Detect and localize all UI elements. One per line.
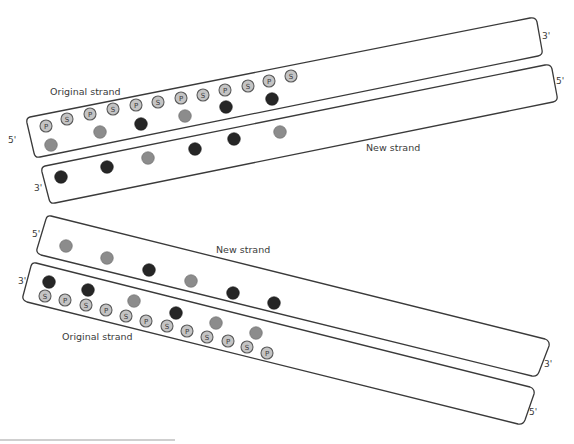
sugar-node: S — [80, 299, 92, 311]
phosphate-node: P — [261, 347, 273, 359]
svg-text:S: S — [201, 92, 206, 100]
bottom-original-strand-label: Original strand — [62, 331, 133, 342]
sugar-node: S — [241, 341, 253, 353]
sugar-node: S — [201, 331, 213, 343]
phosphate-node: P — [175, 92, 187, 104]
svg-text:S: S — [165, 323, 170, 331]
sugar-node: S — [120, 310, 132, 322]
base-dark — [143, 264, 156, 277]
svg-text:S: S — [289, 73, 294, 81]
phosphate-node: P — [84, 108, 96, 120]
base-gray — [274, 126, 287, 139]
top-new-left-end-label: 3' — [34, 183, 42, 193]
svg-text:P: P — [144, 318, 148, 326]
bottom-original-backbone: SPSPSPSPSPSP — [39, 290, 273, 359]
top-new-bases — [55, 126, 287, 184]
base-gray — [142, 152, 155, 165]
base-gray — [45, 139, 58, 152]
svg-text:P: P — [179, 95, 183, 103]
sugar-node: S — [161, 320, 173, 332]
base-dark — [82, 284, 95, 297]
svg-text:P: P — [44, 123, 48, 131]
sugar-node: S — [285, 70, 297, 82]
bottom-new-strand-outline — [37, 216, 549, 376]
base-dark — [135, 118, 148, 131]
svg-text:P: P — [223, 87, 227, 95]
base-gray — [60, 240, 73, 253]
sugar-node: S — [61, 113, 73, 125]
svg-text:P: P — [63, 297, 67, 305]
base-dark — [227, 287, 240, 300]
svg-text:P: P — [134, 102, 138, 110]
sugar-node: S — [152, 96, 164, 108]
base-dark — [268, 297, 281, 310]
base-gray — [128, 295, 141, 308]
phosphate-node: P — [130, 99, 142, 111]
svg-text:P: P — [185, 328, 189, 336]
base-gray — [185, 275, 198, 288]
phosphate-node: P — [181, 325, 193, 337]
base-dark — [170, 307, 183, 320]
base-gray — [94, 126, 107, 139]
phosphate-node: P — [219, 84, 231, 96]
svg-text:S: S — [156, 99, 161, 107]
phosphate-node: P — [59, 294, 71, 306]
base-dark — [266, 93, 279, 106]
svg-text:S: S — [111, 106, 116, 114]
bottom-new-right-end-label: 3' — [544, 359, 552, 369]
svg-text:P: P — [226, 338, 230, 346]
top-original-right-end-label: 3' — [542, 31, 550, 41]
sugar-node: S — [107, 103, 119, 115]
svg-text:S: S — [124, 313, 129, 321]
phosphate-node: P — [40, 120, 52, 132]
top-new-right-end-label: 5' — [556, 76, 564, 86]
bottom-new-strand-label: New strand — [216, 244, 270, 255]
base-gray — [101, 252, 114, 265]
phosphate-node: P — [140, 315, 152, 327]
top-original-left-end-label: 5' — [8, 135, 16, 145]
phosphate-node: P — [263, 75, 275, 87]
bottom-original-right-end-label: 5' — [529, 407, 537, 417]
base-dark — [43, 276, 56, 289]
sugar-node: S — [242, 80, 254, 92]
base-dark — [101, 161, 114, 174]
sugar-node: S — [197, 89, 209, 101]
base-dark — [55, 171, 68, 184]
svg-text:S: S — [43, 293, 48, 301]
svg-text:S: S — [65, 116, 70, 124]
base-gray — [210, 317, 223, 330]
bottom-original-left-end-label: 3' — [18, 276, 26, 286]
top-new-strand-label: New strand — [366, 142, 420, 153]
bottom-new-strand: New strand 5' 3' — [32, 216, 552, 376]
svg-text:S: S — [84, 302, 89, 310]
dna-replication-diagram: Original strand 5' 3' PSPSPSPSPSPS New s… — [0, 0, 574, 444]
base-gray — [179, 110, 192, 123]
phosphate-node: P — [222, 335, 234, 347]
svg-text:S: S — [205, 334, 210, 342]
bottom-original-strand: Original strand 3' 5' SPSPSPSPSPSP — [18, 263, 537, 424]
svg-text:P: P — [267, 78, 271, 86]
svg-text:P: P — [104, 307, 108, 315]
base-dark — [228, 133, 241, 146]
bottom-original-strand-outline — [23, 263, 534, 424]
bottom-original-bases — [43, 276, 263, 340]
base-dark — [189, 143, 202, 156]
svg-text:S: S — [245, 344, 250, 352]
svg-text:S: S — [246, 83, 251, 91]
footer-divider — [0, 439, 175, 441]
svg-text:P: P — [265, 350, 269, 358]
phosphate-node: P — [100, 304, 112, 316]
sugar-node: S — [39, 290, 51, 302]
bottom-new-left-end-label: 5' — [32, 229, 40, 239]
base-gray — [250, 327, 263, 340]
base-dark — [220, 101, 233, 114]
top-original-strand-label: Original strand — [50, 86, 121, 97]
svg-text:P: P — [88, 111, 92, 119]
